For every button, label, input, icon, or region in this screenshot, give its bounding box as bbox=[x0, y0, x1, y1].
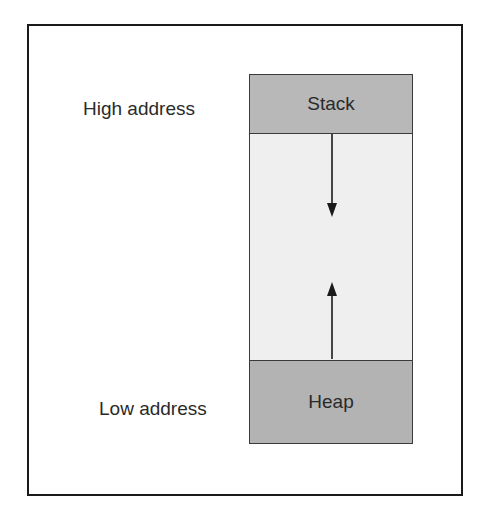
heap-label: Heap bbox=[308, 391, 353, 413]
low-address-label: Low address bbox=[99, 399, 207, 418]
high-address-label: High address bbox=[83, 99, 195, 118]
free-memory-region bbox=[250, 134, 412, 360]
heap-segment: Heap bbox=[250, 360, 412, 443]
memory-layout-column: Stack Heap bbox=[249, 74, 413, 444]
stack-label: Stack bbox=[307, 93, 355, 115]
stack-segment: Stack bbox=[250, 75, 412, 134]
